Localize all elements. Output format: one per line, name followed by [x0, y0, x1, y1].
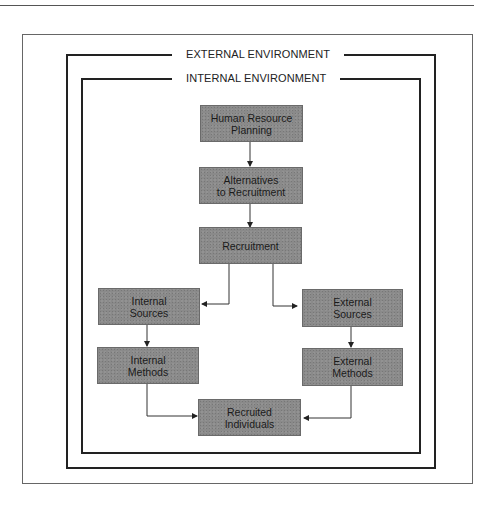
node-internal-sources: Internal Sources	[98, 288, 200, 325]
node-label: Alternatives to Recruitment	[217, 174, 285, 198]
node-label: Internal Methods	[128, 354, 168, 378]
node-label: Recruitment	[222, 240, 279, 252]
node-external-methods: External Methods	[302, 348, 403, 386]
node-label: Internal Sources	[130, 295, 169, 319]
node-external-sources: External Sources	[302, 289, 403, 327]
node-label: External Methods	[332, 355, 372, 379]
node-label: Human Resource Planning	[211, 112, 293, 136]
node-recruitment: Recruitment	[199, 227, 302, 264]
node-label: External Sources	[333, 296, 372, 320]
node-alternatives-to-recruitment: Alternatives to Recruitment	[199, 167, 303, 204]
node-recruited-individuals: Recruited Individuals	[198, 399, 301, 436]
node-human-resource-planning: Human Resource Planning	[200, 105, 303, 142]
node-label: Recruited Individuals	[225, 406, 275, 430]
node-internal-methods: Internal Methods	[97, 347, 199, 384]
